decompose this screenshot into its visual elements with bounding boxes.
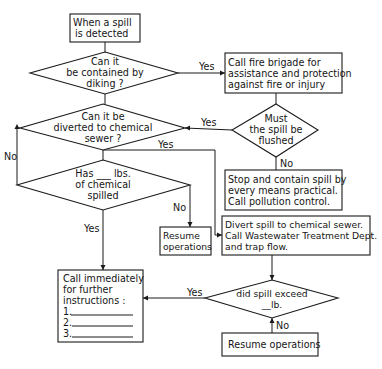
fire-brigade-text: Call fire brigade for assistance and pro… (228, 57, 352, 90)
start-text: When a spill is detected (73, 17, 132, 39)
edge-flushed-yes (185, 128, 232, 130)
label-lbs-yes: Yes (84, 223, 100, 234)
label-divert-yes: Yes (158, 139, 174, 150)
label-lbs-no: No (173, 202, 186, 213)
edge-divert-no-loop (17, 128, 20, 185)
exceed-question-text: did spill exceed __lb. (232, 288, 312, 310)
divert-question-text: Can it be diverted to chemical sewer ? (53, 111, 153, 144)
lbs-question-text: Has ___ lbs. of chemical spilled (58, 168, 148, 201)
diking-text: Can it be contained by diking ? (55, 56, 155, 89)
label-divert-no: No (4, 151, 17, 162)
label-flushed-no: No (280, 158, 293, 169)
resume-text-1: Resume operations (163, 230, 212, 252)
call-immediately-text: Call immediately for further instruction… (63, 273, 144, 339)
label-exceed-yes: Yes (187, 287, 203, 298)
label-flushed-yes: Yes (201, 117, 217, 128)
resume-text-2: Resume operations (228, 339, 321, 350)
label-diking-yes: Yes (199, 61, 215, 72)
stop-contain-text: Stop and contain spill by every means pr… (228, 174, 347, 207)
divert-sewer-text: Divert spill to chemical sewer. Call Was… (225, 219, 377, 252)
flushed-text: Must the spill be flushed (240, 113, 312, 146)
label-exceed-no: No (276, 320, 289, 331)
